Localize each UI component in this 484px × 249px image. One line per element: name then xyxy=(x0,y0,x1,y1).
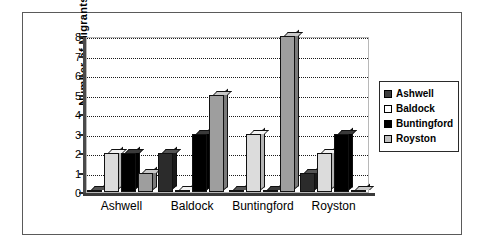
legend-swatch-ashwell xyxy=(384,90,392,98)
legend-item-royston: Royston xyxy=(384,132,454,146)
x-label-royston: Royston xyxy=(312,199,356,213)
bar-group-royston xyxy=(299,38,370,192)
bar-top xyxy=(284,32,303,36)
legend-label-royston: Royston xyxy=(396,134,436,144)
chart-figure-frame: Number of Migrants 012345678 AshwellBald… xyxy=(22,12,462,235)
bar-top xyxy=(125,149,144,153)
bar-face xyxy=(104,153,119,192)
bar-baldock-baldock xyxy=(175,190,190,192)
legend-label-buntingford: Buntingford xyxy=(396,119,453,129)
legend-item-buntingford: Buntingford xyxy=(384,117,454,131)
bar-baldock-ashwell xyxy=(158,153,173,192)
bar-face xyxy=(263,190,278,192)
bar-face xyxy=(175,190,190,192)
bar-face xyxy=(334,134,349,193)
x-axis-line xyxy=(83,193,375,196)
bar-side xyxy=(349,127,353,189)
plot-area xyxy=(86,37,369,193)
bar-group-buntingford xyxy=(229,38,300,192)
bar-face xyxy=(280,36,295,192)
legend-label-ashwell: Ashwell xyxy=(396,89,434,99)
bar-baldock-buntingford xyxy=(192,134,207,193)
bar-face xyxy=(87,190,102,192)
bar-group-ashwell xyxy=(87,38,158,192)
bar-face xyxy=(158,153,173,192)
bar-side xyxy=(173,147,177,189)
bar-buntingford-baldock xyxy=(246,134,261,193)
legend-item-baldock: Baldock xyxy=(384,102,454,116)
bar-face xyxy=(209,95,224,193)
bar-ashwell-buntingford xyxy=(121,153,136,192)
legend-swatch-baldock xyxy=(384,105,392,113)
bar-top xyxy=(250,130,269,134)
bar-ashwell-royston xyxy=(138,173,153,193)
bar-face xyxy=(300,173,315,193)
bar-face xyxy=(317,153,332,192)
bar-face xyxy=(351,190,366,192)
bar-royston-baldock xyxy=(317,153,332,192)
x-axis-category-labels: AshwellBaldockBuntingfordRoyston xyxy=(86,199,369,219)
x-label-ashwell: Ashwell xyxy=(101,199,142,213)
bar-buntingford-buntingford xyxy=(263,190,278,192)
x-label-buntingford: Buntingford xyxy=(232,199,293,213)
chart-legend: AshwellBaldockBuntingfordRoyston xyxy=(379,81,459,152)
bar-royston-buntingford xyxy=(334,134,349,193)
bar-royston-ashwell xyxy=(300,173,315,193)
legend-swatch-buntingford xyxy=(384,120,392,128)
bar-ashwell-ashwell xyxy=(87,190,102,192)
bar-buntingford-ashwell xyxy=(229,190,244,192)
bar-top xyxy=(355,186,374,190)
bar-ashwell-baldock xyxy=(104,153,119,192)
legend-label-baldock: Baldock xyxy=(396,104,435,114)
bar-face xyxy=(246,134,261,193)
bar-baldock-royston xyxy=(209,95,224,193)
bar-top xyxy=(162,149,181,153)
bar-side xyxy=(261,127,265,189)
bar-face xyxy=(229,190,244,192)
legend-swatch-royston xyxy=(384,135,392,143)
bar-royston-royston xyxy=(351,190,366,192)
bar-face xyxy=(121,153,136,192)
legend-item-ashwell: Ashwell xyxy=(384,87,454,101)
bar-group-baldock xyxy=(158,38,229,192)
bar-face xyxy=(192,134,207,193)
bar-buntingford-royston xyxy=(280,36,295,192)
x-label-baldock: Baldock xyxy=(171,199,214,213)
bar-face xyxy=(138,173,153,193)
bar-top xyxy=(338,130,357,134)
